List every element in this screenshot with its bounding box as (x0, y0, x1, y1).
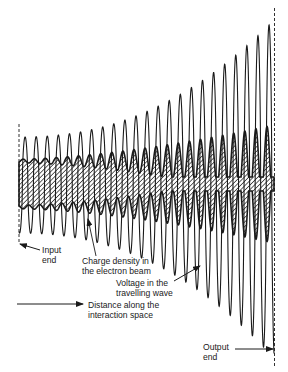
distance-label: Distance along the interaction space (88, 300, 159, 320)
input-end-label: Input end (42, 245, 61, 265)
input-end-arrow (20, 244, 40, 250)
voltage-label: Voltage in the travelling wave (116, 278, 173, 298)
charge-density-label: Charge density in the electron beam (82, 256, 151, 276)
output-end-label: Output end (203, 342, 229, 362)
